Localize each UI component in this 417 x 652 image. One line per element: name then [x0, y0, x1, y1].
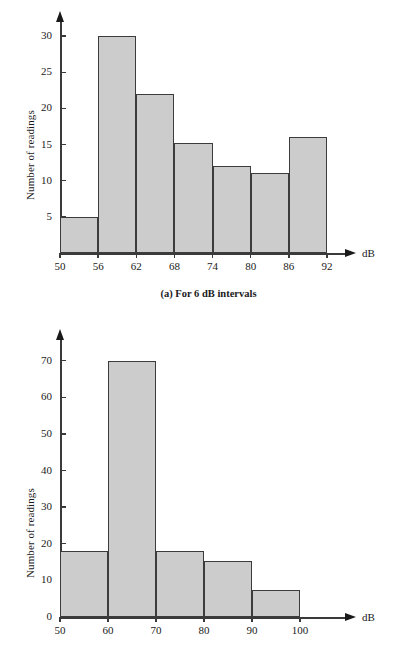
y-tick-label-a-10: 10 [18, 174, 52, 186]
x-axis-unit-b: dB [362, 611, 375, 623]
y-tick-label-b-0: 0 [18, 610, 52, 622]
x-tick-label-a-56: 56 [83, 260, 113, 272]
x-tick-b-50 [59, 617, 60, 622]
y-tick-label-a-15: 15 [18, 138, 52, 150]
bar [174, 143, 212, 253]
x-tick-a-86 [288, 253, 289, 258]
y-axis-arrow-b [56, 329, 64, 340]
y-tick-label-a-5: 5 [18, 210, 52, 222]
histogram-figure-b: dB 010203040506070 5060708090100 [0, 318, 417, 652]
x-axis-arrow-a [345, 249, 356, 257]
y-tick-a-15 [60, 144, 66, 145]
y-tick-label-b-60: 60 [18, 390, 52, 402]
bar [98, 36, 136, 253]
x-tick-b-100 [299, 617, 300, 622]
y-axis-label-b: Number of readings [24, 488, 36, 578]
x-tick-a-56 [97, 253, 98, 258]
bar [204, 561, 252, 617]
x-tick-label-a-74: 74 [198, 260, 228, 272]
x-axis-line-a [60, 253, 345, 255]
y-tick-a-20 [60, 108, 66, 109]
x-tick-a-68 [174, 253, 175, 258]
y-axis-arrow-a [56, 11, 64, 22]
y-tick-b-70 [60, 360, 66, 361]
y-tick-label-a-30: 30 [18, 29, 52, 41]
x-tick-label-a-68: 68 [159, 260, 189, 272]
y-tick-label-b-50: 50 [18, 427, 52, 439]
histogram-figure-a: Number of readings dB 51015202530 505662… [0, 0, 417, 312]
y-axis-label-a: Number of readings [24, 110, 36, 200]
y-tick-label-b-40: 40 [18, 464, 52, 476]
x-tick-label-a-92: 92 [312, 260, 342, 272]
x-tick-label-a-80: 80 [236, 260, 266, 272]
y-tick-b-20 [60, 543, 66, 544]
y-tick-a-10 [60, 180, 66, 181]
x-tick-a-74 [212, 253, 213, 258]
bar [213, 166, 251, 253]
plot-area-b: dB 010203040506070 5060708090100 [0, 318, 417, 618]
bar [252, 590, 300, 617]
x-tick-a-62 [136, 253, 137, 258]
x-axis-arrow-b [345, 613, 356, 621]
x-tick-label-b-70: 70 [141, 624, 171, 636]
bar [136, 94, 174, 253]
bar [60, 217, 98, 253]
bar [251, 173, 289, 253]
y-tick-b-50 [60, 433, 66, 434]
x-tick-b-80 [203, 617, 204, 622]
x-tick-label-b-100: 100 [285, 624, 315, 636]
x-tick-a-50 [59, 253, 60, 258]
x-tick-label-b-80: 80 [189, 624, 219, 636]
x-tick-b-60 [107, 617, 108, 622]
x-tick-label-b-90: 90 [237, 624, 267, 636]
bar [156, 551, 204, 617]
bar [108, 361, 156, 617]
bar [60, 551, 108, 617]
y-tick-b-30 [60, 506, 66, 507]
figure-caption-a: (a) For 6 dB intervals [0, 288, 417, 299]
x-tick-b-90 [251, 617, 252, 622]
x-tick-label-b-60: 60 [93, 624, 123, 636]
x-tick-label-a-62: 62 [121, 260, 151, 272]
x-tick-label-b-50: 50 [45, 624, 75, 636]
x-tick-a-92 [326, 253, 327, 258]
y-tick-b-60 [60, 397, 66, 398]
y-tick-label-a-20: 20 [18, 101, 52, 113]
bar [289, 137, 327, 253]
y-tick-a-30 [60, 35, 66, 36]
x-tick-label-a-86: 86 [274, 260, 304, 272]
y-tick-b-40 [60, 470, 66, 471]
x-tick-a-80 [250, 253, 251, 258]
y-tick-label-a-25: 25 [18, 65, 52, 77]
y-tick-label-b-70: 70 [18, 354, 52, 366]
y-tick-a-25 [60, 72, 66, 73]
x-tick-b-70 [155, 617, 156, 622]
plot-area-a: Number of readings dB 51015202530 505662… [0, 0, 417, 278]
x-axis-unit-a: dB [362, 247, 375, 259]
x-tick-label-a-50: 50 [45, 260, 75, 272]
